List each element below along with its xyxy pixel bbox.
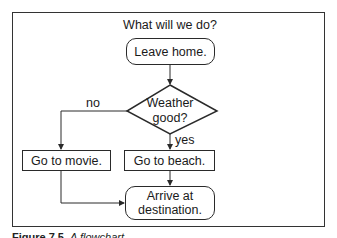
beach-node-label: Go to beach. [134,154,206,168]
figure-caption: Figure 7.5A flowchart [12,231,124,238]
yes-edge-label: yes [175,133,194,147]
start-node: Leave home. [126,38,215,65]
movie-node: Go to movie. [22,150,111,171]
figure-caption-text: A flowchart [70,231,124,238]
start-node-label: Leave home. [134,45,206,59]
arrow-decision-to-movie [61,111,127,149]
no-edge-label: no [86,96,100,110]
decision-node-label: Weather good? [140,96,200,126]
end-label-line2: destination. [138,203,202,217]
beach-node: Go to beach. [124,150,215,171]
arrow-movie-to-end [61,170,124,203]
end-label-line1: Arrive at [147,189,194,203]
decision-label-line1: Weather [140,96,200,111]
movie-node-label: Go to movie. [31,154,102,168]
end-node: Arrive at destination. [125,186,215,220]
diagram-title: What will we do? [113,18,227,32]
figure-number: Figure 7.5 [12,231,64,238]
decision-label-line2: good? [140,111,200,126]
